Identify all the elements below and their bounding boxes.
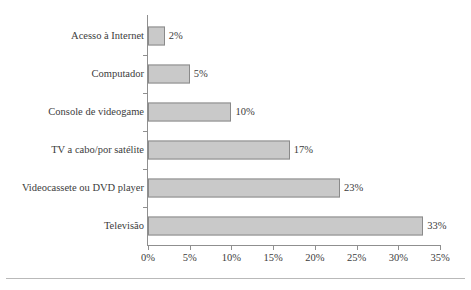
bar-row: Computador 5% [148,55,440,93]
category-tick [143,169,148,170]
bar-row: Televisão 33% [148,207,440,245]
bar: 23% [148,179,340,198]
category-label: Videocassete ou DVD player [22,183,144,194]
value-axis-tick [190,245,191,250]
bar-value-label: 5% [194,69,208,80]
bar-value-label: 17% [294,145,313,156]
category-tick [143,55,148,56]
bar-row: Acesso à Internet 2% [148,17,440,55]
value-axis-tick-label: 25% [347,253,366,264]
plot-area: Acesso à Internet 2% Computador 5% Conso… [148,17,440,245]
value-axis-tick [273,245,274,250]
value-axis-tick-label: 5% [183,253,197,264]
bar-row: TV a cabo/por satélite 17% [148,131,440,169]
bar-value-label: 10% [235,107,254,118]
value-axis-line [147,245,441,246]
value-axis-tick-label: 35% [430,253,449,264]
value-axis-tick [148,245,149,250]
category-tick [143,131,148,132]
bar-row: Console de videogame 10% [148,93,440,131]
bar-value-label: 33% [427,221,446,232]
bar: 33% [148,217,423,236]
value-axis-tick [398,245,399,250]
bar: 17% [148,141,290,160]
value-axis-tick [440,245,441,250]
category-tick [143,93,148,94]
category-label: Televisão [104,221,144,232]
value-axis-tick [315,245,316,250]
category-label: TV a cabo/por satélite [51,145,144,156]
category-label: Computador [92,69,145,80]
bar: 5% [148,65,190,84]
bar: 2% [148,27,165,46]
bar-value-label: 23% [344,183,363,194]
value-axis-tick-label: 15% [264,253,283,264]
bar: 10% [148,103,231,122]
bar-row: Videocassete ou DVD player 23% [148,169,440,207]
bar-value-label: 2% [169,31,183,42]
value-axis-tick [357,245,358,250]
value-axis-tick-label: 20% [305,253,324,264]
value-axis-tick-label: 0% [141,253,155,264]
category-label: Console de videogame [48,107,144,118]
category-label: Acesso à Internet [71,31,144,42]
value-axis-tick-label: 30% [389,253,408,264]
value-axis-tick-label: 10% [222,253,241,264]
page-divider-rule [6,278,465,279]
value-axis-tick [231,245,232,250]
category-tick [143,207,148,208]
bar-chart: Acesso à Internet 2% Computador 5% Conso… [0,0,471,290]
